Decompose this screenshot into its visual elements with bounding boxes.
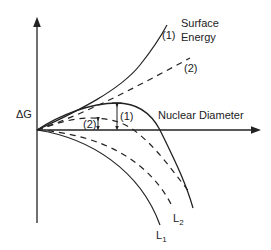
total-energy-curve-2 — [37, 118, 190, 193]
L1-sub: 1 — [162, 235, 166, 244]
L2-sub: 2 — [179, 218, 183, 227]
volume-energy-curve-L1 — [37, 130, 160, 225]
barrier-2-label: (2) — [83, 118, 96, 130]
barrier-1-label: (1) — [120, 110, 133, 122]
surface-curve-2-label: (2) — [184, 62, 197, 74]
volume-energy-curve-L2 — [37, 130, 173, 208]
surface-energy-label-2: Energy — [181, 31, 216, 43]
L1-label: L1 — [156, 229, 167, 243]
x-axis-label: Nuclear Diameter — [158, 109, 244, 121]
L2-label: L2 — [173, 212, 184, 226]
surface-energy-label-1: Surface — [181, 17, 219, 29]
surface-curve-1-label: (1) — [162, 29, 175, 41]
y-axis-label: ΔG — [16, 108, 32, 120]
nucleation-diagram — [0, 0, 271, 250]
